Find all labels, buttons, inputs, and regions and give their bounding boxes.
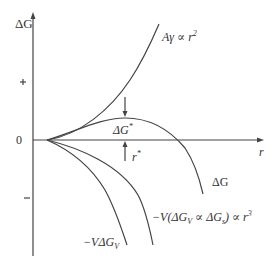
barrier-arrow-icon [123,111,128,117]
label-barrier: ΔG* [113,123,133,136]
label-surface-energy: Aγ ∝ r2 [162,30,197,43]
label-volume-combined: −V(ΔGV ∝ ΔGs) ∝ r3 [152,210,252,226]
y-tick-zero: 0 [16,134,22,146]
label-volume: −VΔGV [83,236,119,251]
x-axis-arrow-icon [257,138,264,143]
y-axis-label: ΔG [15,17,33,30]
curve-surface-energy [47,24,159,140]
x-axis-label: r [259,146,264,158]
label-critical-radius: r* [132,150,141,163]
label-delta-g: ΔG [212,176,228,188]
diagram-canvas [0,0,276,267]
curve-volume [47,140,127,245]
radius-arrow-icon [123,141,128,147]
